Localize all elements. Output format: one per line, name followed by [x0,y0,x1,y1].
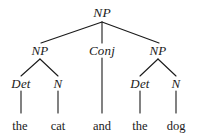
tree-node-det-right: Det [130,77,149,90]
tree-edge-NP-right-to-N-2 [158,59,176,76]
tree-edge-NP-right-to-Det-2 [140,59,158,76]
tree-terminal-dog: dog [167,120,186,133]
tree-node-n-right: N [172,77,181,90]
tree-node-conj: Conj [89,44,115,57]
tree-edge-root-NP-to-NP-right [102,22,159,43]
tree-edge-NP-left-to-Det-1 [21,59,40,76]
tree-terminal-cat: cat [51,120,66,133]
tree-node-root-np: NP [93,6,111,20]
tree-terminal-and: and [93,120,111,133]
tree-node-np-left: NP [31,44,48,57]
tree-node-n-left: N [54,77,63,90]
tree-edge-NP-left-to-N-1 [40,59,58,76]
tree-terminal-the-2: the [132,120,147,133]
tree-node-np-right: NP [149,44,166,57]
syntax-tree-figure: NP NP Conj NP Det N Det N the cat and th… [0,0,198,139]
tree-edge-root-NP-to-NP-left [41,22,102,43]
tree-terminal-the-1: the [12,120,27,133]
tree-node-det-left: Det [11,77,30,90]
